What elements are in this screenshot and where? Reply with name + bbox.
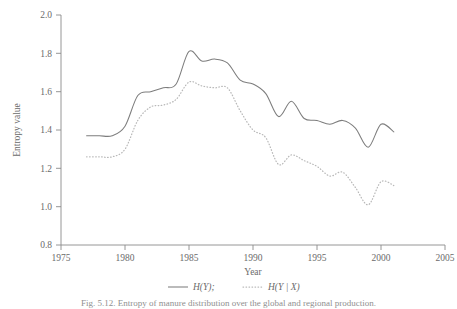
series-line-conditional-entropy [87, 82, 394, 205]
y-tick-label: 2.0 [40, 10, 52, 20]
y-tick-label: 1.6 [40, 87, 52, 97]
legend-label-entropy: H(Y); [192, 282, 215, 293]
x-tick-label: 2000 [372, 253, 391, 263]
x-tick-label: 1975 [52, 253, 71, 263]
y-tick-label: 1.8 [40, 49, 52, 59]
entropy-line-chart: 0.8 1.0 1.2 1.4 1.6 1.8 2.0 1975 1980 19… [0, 0, 457, 309]
y-tick-label: 0.8 [40, 240, 52, 250]
x-axis-ticks [61, 245, 445, 250]
y-tick-label: 1.2 [40, 164, 52, 174]
y-tick-label: 1.0 [40, 202, 52, 212]
x-axis-tick-labels: 1975 1980 1985 1990 1995 2000 2005 [52, 253, 455, 263]
chart-legend: H(Y); H(Y | X) [168, 282, 300, 293]
y-axis-tick-labels: 0.8 1.0 1.2 1.4 1.6 1.8 2.0 [40, 10, 52, 250]
x-axis-title: Year [244, 267, 262, 277]
series-line-entropy [87, 51, 394, 148]
legend-label-conditional-entropy: H(Y | X) [267, 282, 300, 293]
x-tick-label: 1995 [308, 253, 327, 263]
x-tick-label: 1990 [244, 253, 263, 263]
y-axis-ticks [56, 15, 61, 245]
x-tick-label: 2005 [436, 253, 455, 263]
figure-caption: Fig. 5.12. Entropy of manure distributio… [0, 297, 457, 309]
figure-container: 0.8 1.0 1.2 1.4 1.6 1.8 2.0 1975 1980 19… [0, 0, 457, 309]
x-tick-label: 1985 [180, 253, 199, 263]
x-tick-label: 1980 [116, 253, 135, 263]
y-axis-title: Entropy value [12, 103, 22, 157]
y-tick-label: 1.4 [40, 125, 52, 135]
